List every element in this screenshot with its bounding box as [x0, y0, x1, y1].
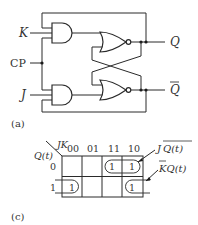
caption-c: (c): [11, 211, 25, 222]
kmap-cell-1-00: 1: [69, 182, 75, 193]
cp-junction-dot: [40, 61, 43, 64]
j-label: J: [18, 88, 27, 102]
nor-bottom-bubble: [126, 88, 131, 93]
jk-flip-flop-figure: K CP J Q Q (a) JK Q(t) 00 01 11 10 0 1 1…: [0, 0, 198, 225]
q-junction-dot-2: [144, 40, 147, 43]
group-label-j: J: [155, 143, 162, 154]
kmap-col-header-11: 11: [108, 143, 120, 154]
kmap-col-header-01: 01: [87, 143, 99, 154]
karnaugh-map: JK Q(t) 00 01 11 10 0 1 1 1 1 1: [11, 139, 192, 222]
qbar-label: Q: [170, 83, 180, 97]
kmap-row-header-0: 0: [50, 161, 56, 172]
cross-wire-q-to-bottom: [92, 42, 141, 85]
qbar-junction-dot-2: [144, 88, 147, 91]
kmap-cell-0-11: 1: [109, 161, 115, 172]
and-gate-k: [52, 23, 72, 43]
q-label: Q: [170, 35, 180, 49]
circuit-diagram: K CP J Q Q (a): [10, 13, 180, 129]
nor-gate-top: [100, 32, 126, 52]
cross-wire-qbar-to-top: [92, 47, 141, 90]
kmap-row-header-1: 1: [50, 182, 56, 193]
nor-top-bubble: [126, 40, 131, 45]
and-gate-j: [52, 85, 72, 105]
cp-wire: [42, 38, 52, 90]
group-label-qt-overlined: Q(t): [163, 143, 183, 154]
kmap-col-header-00: 00: [67, 143, 79, 154]
group-label-j-qbar: JQ(t): [155, 143, 183, 154]
nor-gate-bottom: [100, 80, 126, 100]
group-label-qt: Q(t): [166, 163, 186, 174]
group-label-kbar-q: KQ(t): [158, 163, 187, 174]
kmap-row-var: Q(t): [34, 150, 53, 161]
kmap-col-header-10: 10: [128, 143, 140, 154]
kmap-cell-0-10: 1: [129, 161, 135, 172]
k-label: K: [18, 26, 29, 40]
cp-label: CP: [10, 57, 26, 70]
caption-a: (a): [11, 118, 25, 129]
kmap-cell-1-10: 1: [129, 182, 135, 193]
